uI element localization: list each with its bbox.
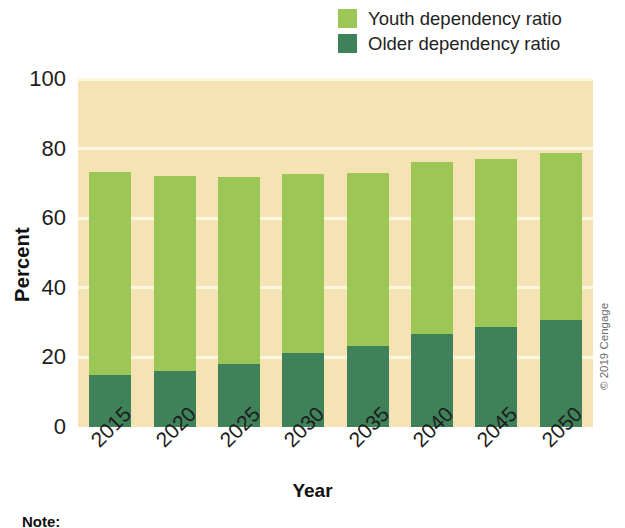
legend-swatch-youth-icon	[338, 9, 357, 28]
bar-group	[282, 174, 324, 427]
bar-series-container	[78, 79, 593, 427]
bar-segment-youth	[475, 159, 517, 327]
y-tick-label: 20	[42, 344, 66, 370]
bar-segment-youth	[218, 177, 260, 364]
x-axis-tick-labels: 20152020202520302035204020452050	[0, 427, 625, 487]
legend-swatch-older-icon	[338, 34, 357, 53]
y-tick-label: 60	[42, 205, 66, 231]
bar-segment-youth	[411, 162, 453, 334]
y-axis-title: Percent	[11, 205, 34, 325]
legend-label-youth: Youth dependency ratio	[368, 8, 562, 30]
bar-group	[154, 176, 196, 427]
chart-legend: Youth dependency ratio Older dependency …	[338, 6, 598, 56]
legend-label-older: Older dependency ratio	[368, 33, 560, 55]
legend-item-youth: Youth dependency ratio	[338, 6, 598, 31]
bar-group	[89, 172, 131, 427]
bar-group	[540, 153, 582, 427]
bar-group	[475, 159, 517, 427]
y-tick-label: 40	[42, 275, 66, 301]
bar-segment-youth	[89, 172, 131, 375]
copyright-credit: © 2019 Cengage	[598, 303, 610, 390]
bar-segment-youth	[347, 173, 389, 346]
x-axis-title: Year	[0, 480, 625, 502]
bar-segment-youth	[154, 176, 196, 371]
y-tick-label: 100	[29, 66, 66, 92]
note-label: Note:	[22, 513, 60, 528]
legend-item-older: Older dependency ratio	[338, 31, 598, 56]
bar-segment-youth	[540, 153, 582, 320]
bar-group	[411, 162, 453, 427]
bar-group	[218, 177, 260, 427]
plot-area	[78, 79, 593, 427]
bar-group	[347, 173, 389, 427]
y-tick-label: 80	[42, 136, 66, 162]
bar-segment-youth	[282, 174, 324, 353]
